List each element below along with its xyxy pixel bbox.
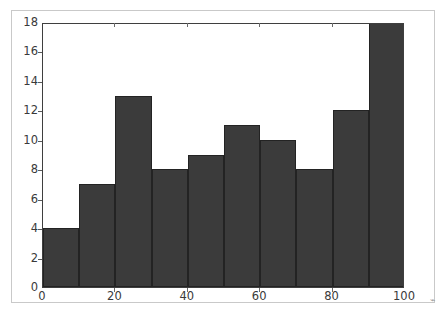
x-tick-label: 20 — [107, 291, 122, 303]
x-tick-label: 100 — [393, 291, 415, 303]
histogram-bar — [224, 125, 260, 287]
histogram-bar — [296, 169, 332, 287]
x-tick-mark — [114, 23, 115, 27]
y-tick-label: 14 — [10, 76, 38, 88]
y-tick-label: 2 — [10, 253, 38, 265]
histogram-bar — [333, 110, 369, 287]
histogram-bars — [43, 24, 403, 287]
histogram-figure: 024681012141618 020406080100 ⌁ — [0, 0, 446, 314]
y-tick-label: 12 — [10, 106, 38, 118]
y-tick-label: 18 — [10, 17, 38, 29]
x-tick-mark — [259, 23, 260, 27]
x-tick-label: 80 — [324, 291, 339, 303]
y-tick-label: 4 — [10, 223, 38, 235]
y-axis-tick-labels: 024681012141618 — [6, 23, 38, 288]
y-tick-label: 0 — [10, 282, 38, 294]
histogram-bar — [79, 184, 115, 287]
y-tick-label: 16 — [10, 47, 38, 59]
histogram-bar — [188, 155, 224, 288]
y-tick-label: 10 — [10, 135, 38, 147]
y-tick-label: 8 — [10, 164, 38, 176]
histogram-bar — [115, 96, 151, 287]
x-axis-tick-marks-top — [42, 23, 404, 28]
x-tick-label: 0 — [38, 291, 45, 303]
histogram-bar — [369, 23, 404, 287]
histogram-bar — [260, 140, 296, 287]
x-tick-label: 60 — [252, 291, 267, 303]
histogram-bar — [152, 169, 188, 287]
x-tick-mark — [332, 23, 333, 27]
x-axis-tick-labels: 020406080100 — [42, 291, 404, 309]
histogram-bar — [43, 228, 79, 287]
x-tick-label: 40 — [179, 291, 194, 303]
x-tick-mark — [187, 23, 188, 27]
plot-area — [42, 23, 404, 288]
compression-artifact-icon: ⌁ — [430, 296, 436, 304]
y-tick-label: 6 — [10, 194, 38, 206]
